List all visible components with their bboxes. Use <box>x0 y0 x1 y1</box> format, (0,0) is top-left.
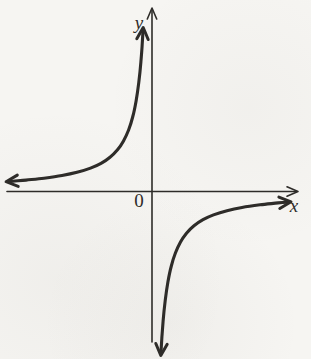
curve-branch-quadrant-IV <box>161 202 287 351</box>
hyperbola-plot: y x 0 <box>0 0 311 359</box>
figure-canvas: y x 0 <box>0 0 311 359</box>
plot-drawing <box>6 8 298 356</box>
x-axis-label: x <box>289 195 299 216</box>
curve-branch-quadrant-II <box>10 32 143 182</box>
y-axis-label: y <box>133 12 144 33</box>
origin-label: 0 <box>134 190 144 211</box>
